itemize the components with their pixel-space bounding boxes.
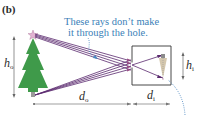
object-height-label: ho: [4, 57, 14, 71]
object-distance-label: do: [79, 90, 89, 104]
image-distance-line: [133, 103, 170, 106]
image-height-arrow: [182, 52, 185, 80]
annotation-line-2: it through the hole.: [68, 27, 148, 38]
panel-label: (b): [2, 4, 15, 15]
rays-top: [35, 34, 131, 70]
inverted-tree-image: [159, 54, 167, 80]
annotation-line-1: These rays don’t make: [64, 16, 159, 27]
rays-through-hole: [132, 55, 163, 78]
tree-object: [18, 38, 48, 97]
image-distance-label: di: [147, 89, 155, 103]
pinhole-camera-diagram: (b) These rays don’t make it through the…: [0, 0, 197, 115]
image-height-label: hi: [186, 59, 194, 73]
